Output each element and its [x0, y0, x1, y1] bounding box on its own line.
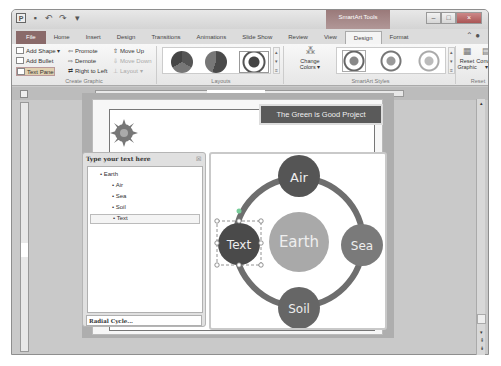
layout-option-cycle-1[interactable] — [171, 51, 193, 73]
node-sea-label: Sea — [351, 239, 373, 253]
text-pane-button[interactable]: Text Pane — [16, 67, 55, 76]
redo-icon[interactable]: ↷ — [58, 13, 68, 23]
text-pane-icon — [17, 68, 25, 75]
right-to-left-icon: ⇄ — [68, 67, 73, 74]
maximize-button[interactable]: □ — [441, 12, 456, 24]
minimize-button[interactable]: ‒ — [426, 12, 441, 24]
group-smartart-styles: ⁂Change Colors ▾ ▴▾≡ SmartArt Styles — [286, 46, 456, 84]
tab-home[interactable]: Home — [46, 31, 78, 44]
vertical-scrollbar[interactable]: ▴ ▾ ⇞ ⇟ — [476, 99, 485, 355]
scroll-up-icon[interactable]: ▴ — [477, 100, 486, 106]
scroll-down-icon[interactable]: ▾ — [477, 329, 486, 335]
move-down-button[interactable]: ⇩Move Down — [113, 57, 152, 64]
tab-format[interactable]: Format — [382, 31, 417, 44]
layouts-scroll[interactable]: ▴▾≡ — [273, 47, 280, 74]
quick-access-toolbar: P ▪ ↶ ↷ ▾ — [16, 13, 82, 23]
group-create-graphic: Add Shape ▾ Add Bullet Text Pane ⇦Promot… — [12, 46, 157, 84]
demote-icon: ⇨ — [68, 57, 73, 64]
list-item[interactable]: • Sea — [112, 193, 126, 199]
reset-graphic-icon: ▦ — [463, 46, 472, 56]
tab-slide-show[interactable]: Slide Show — [234, 31, 280, 44]
style-option-1[interactable] — [342, 50, 366, 72]
contextual-tab-label: SmartArt Tools — [326, 14, 390, 20]
vertical-ruler[interactable] — [20, 102, 29, 352]
scroll-thumb[interactable] — [477, 314, 486, 324]
layout-icon: ⊥ — [113, 67, 118, 74]
text-pane-footer-link[interactable]: Radial Cycle... — [86, 315, 202, 326]
smartart-styles-gallery — [336, 47, 446, 74]
reset-graphic-button[interactable]: ▦Reset Graphic — [458, 46, 476, 70]
layout-option-cycle-2[interactable] — [205, 51, 227, 73]
center-node-label: Earth — [279, 233, 319, 251]
list-item[interactable]: • Earth — [100, 171, 118, 177]
customize-qat-icon[interactable]: ▾ — [72, 13, 82, 23]
move-up-button[interactable]: ⇧Move Up — [113, 47, 144, 54]
tab-insert[interactable]: Insert — [78, 31, 109, 44]
layout-button[interactable]: ⊥Layout ▾ — [113, 67, 143, 74]
tab-review[interactable]: Review — [280, 31, 316, 44]
slide-title[interactable]: The Green is Good Project — [259, 104, 383, 125]
convert-button[interactable]: ▤Convert ▾ — [476, 46, 489, 70]
group-reset: ▦Reset Graphic ▤Convert ▾ Reset — [458, 46, 489, 84]
style-option-2[interactable] — [379, 50, 403, 72]
add-shape-icon — [16, 47, 24, 54]
next-slide-icon[interactable]: ⇟ — [477, 345, 486, 351]
ruler-corner-tab-selector[interactable] — [20, 90, 28, 98]
list-item[interactable]: • Air — [112, 182, 123, 188]
undo-icon[interactable]: ↶ — [44, 13, 54, 23]
text-pane-close-button[interactable]: ☒ — [196, 155, 201, 162]
group-label: SmartArt Styles — [286, 78, 455, 84]
add-bullet-icon — [16, 57, 24, 64]
flower-graphic[interactable] — [110, 119, 138, 147]
group-label: Reset — [458, 78, 489, 84]
move-up-icon: ⇧ — [113, 47, 118, 54]
ribbon: Add Shape ▾ Add Bullet Text Pane ⇦Promot… — [12, 44, 488, 86]
promote-icon: ⇦ — [68, 47, 73, 54]
group-label: Layouts — [159, 78, 283, 84]
text-pane-header: Type your text here — [86, 155, 151, 162]
title-bar: P ▪ ↶ ↷ ▾ ‒ □ × — [12, 10, 488, 29]
ribbon-tabs: File Home Insert Design Transitions Anim… — [12, 29, 488, 44]
node-air-label: Air — [290, 170, 309, 185]
radial-cycle-diagram: Earth Air Sea Soil Text — [211, 154, 385, 328]
rotate-handle[interactable] — [237, 209, 242, 214]
tab-smartart-design[interactable]: Design — [345, 31, 382, 44]
list-item[interactable]: • Soil — [112, 204, 126, 210]
group-layouts: ▴▾≡ Layouts — [159, 46, 284, 84]
tab-view[interactable]: View — [316, 31, 345, 44]
list-item-selected[interactable]: • Text — [90, 214, 200, 224]
app-icon[interactable]: P — [16, 13, 26, 23]
node-text-label: Text — [226, 238, 252, 252]
convert-icon: ▤ — [482, 46, 490, 56]
change-colors-icon: ⁂ — [306, 46, 315, 56]
layouts-gallery — [162, 47, 271, 74]
style-option-3[interactable] — [417, 50, 441, 72]
close-button[interactable]: × — [456, 12, 482, 24]
previous-slide-icon[interactable]: ⇞ — [477, 337, 486, 343]
group-label: Create Graphic — [12, 78, 156, 84]
tab-design[interactable]: Design — [109, 31, 144, 44]
node-soil-label: Soil — [288, 302, 310, 316]
tab-transitions[interactable]: Transitions — [143, 31, 188, 44]
smartart-canvas[interactable]: Earth Air Sea Soil Text — [209, 152, 387, 330]
tab-animations[interactable]: Animations — [189, 31, 235, 44]
demote-button[interactable]: ⇨Demote — [68, 57, 96, 64]
save-icon[interactable]: ▪ — [30, 13, 40, 23]
layout-option-radial-cycle[interactable] — [239, 51, 269, 73]
window-controls: ‒ □ × — [426, 12, 482, 24]
move-down-icon: ⇩ — [113, 57, 118, 64]
tab-file[interactable]: File — [16, 31, 46, 44]
change-colors-button[interactable]: ⁂Change Colors ▾ — [292, 46, 328, 70]
right-to-left-button[interactable]: ⇄Right to Left — [68, 67, 107, 74]
add-bullet-button[interactable]: Add Bullet — [16, 57, 53, 64]
help-icon[interactable]: ⌃ ● — [466, 31, 480, 40]
text-pane-list: • Earth • Air • Sea • Soil • Text — [87, 166, 203, 313]
add-shape-button[interactable]: Add Shape ▾ — [16, 47, 60, 54]
text-pane: Type your text here ☒ • Earth • Air • Se… — [82, 152, 206, 327]
promote-button[interactable]: ⇦Promote — [68, 47, 98, 54]
styles-scroll[interactable]: ▴▾≡ — [448, 47, 455, 74]
